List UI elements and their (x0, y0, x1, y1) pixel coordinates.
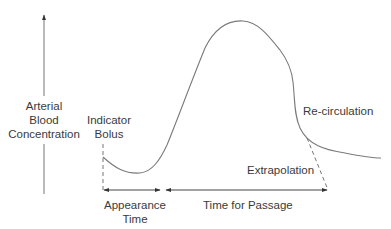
indicator-label-line: Bolus (80, 127, 138, 141)
y-axis-label-line: Arterial (5, 99, 83, 113)
indicator-label-line: Indicator (80, 113, 138, 127)
extrapolation-label: Extrapolation (247, 163, 314, 177)
indicator-bolus-label: Indicator Bolus (80, 113, 138, 141)
y-axis-label: Arterial Blood Concentration (5, 99, 83, 141)
appearance-time-label: Appearance Time (100, 198, 170, 226)
recirculation-label: Re-circulation (303, 104, 373, 118)
appearance-label-line: Appearance (100, 198, 170, 212)
concentration-curve (103, 21, 381, 173)
appearance-label-line: Time (100, 212, 170, 226)
y-axis-label-line: Blood (5, 113, 83, 127)
y-axis-label-line: Concentration (5, 127, 83, 141)
time-for-passage-label: Time for Passage (203, 198, 293, 212)
